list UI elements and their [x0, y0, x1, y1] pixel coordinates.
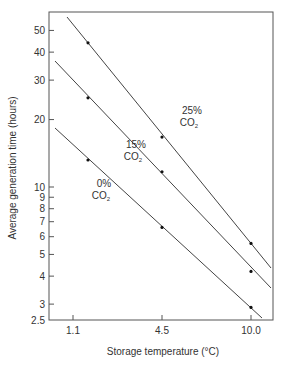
y-tick-label: 5 [39, 249, 45, 260]
data-point-15pct-co2 [249, 270, 252, 273]
series-labels: 25%CO215%CO20%CO2 [92, 105, 202, 202]
y-tick-label: 10 [34, 182, 46, 193]
y-tick-label: 7 [39, 216, 45, 227]
y-tick-label: 3 [39, 299, 45, 310]
data-point-25pct-co2 [86, 41, 89, 44]
plot-frame [49, 12, 273, 320]
series-label-percent: 15% [126, 139, 146, 150]
series-label-gas: CO2 [180, 117, 199, 129]
y-tick-label: 30 [34, 75, 46, 86]
data-point-15pct-co2 [86, 96, 89, 99]
data-point-15pct-co2 [160, 170, 163, 173]
x-tick-label: 1.1 [66, 325, 80, 336]
data-point-0pct-co2 [160, 226, 163, 229]
data-point-0pct-co2 [249, 306, 252, 309]
chart: 2.534567891020304050 1.14.510.0 25%CO215… [0, 0, 285, 366]
y-axis-label: Average generation time (hours) [7, 96, 18, 239]
y-tick-label: 20 [34, 114, 46, 125]
x-axis-label: Storage temperature (°C) [107, 346, 219, 357]
x-tick-label: 10.0 [241, 325, 261, 336]
data-point-25pct-co2 [249, 242, 252, 245]
series-label-gas: CO2 [92, 190, 111, 202]
data-point-0pct-co2 [86, 158, 89, 161]
series-lines [55, 17, 271, 318]
y-tick-label: 9 [39, 192, 45, 203]
series-label-percent: 25% [182, 105, 202, 116]
series-line-15pct-co2 [55, 61, 271, 288]
y-tick-label: 40 [34, 47, 46, 58]
x-tick-label: 4.5 [155, 325, 169, 336]
y-tick-label: 2.5 [31, 315, 45, 326]
series-line-25pct-co2 [67, 17, 271, 268]
series-line-0pct-co2 [55, 128, 262, 318]
y-tick-label: 4 [39, 271, 45, 282]
y-tick-label: 8 [39, 203, 45, 214]
y-tick-label: 50 [34, 25, 46, 36]
series-label-gas: CO2 [124, 151, 143, 163]
series-label-percent: 0% [97, 178, 112, 189]
x-axis-ticks: 1.14.510.0 [66, 315, 261, 336]
y-tick-label: 6 [39, 231, 45, 242]
data-point-25pct-co2 [160, 136, 163, 139]
y-axis-ticks: 2.534567891020304050 [31, 25, 54, 326]
